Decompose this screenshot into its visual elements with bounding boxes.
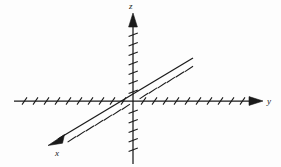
coordinate-axes-figure: z y x xyxy=(0,0,281,167)
figure-background xyxy=(0,0,281,167)
axes-diagram-svg xyxy=(0,0,281,167)
y-axis-label: y xyxy=(267,97,271,106)
z-axis-label: z xyxy=(129,2,133,11)
x-axis-label: x xyxy=(55,149,59,158)
